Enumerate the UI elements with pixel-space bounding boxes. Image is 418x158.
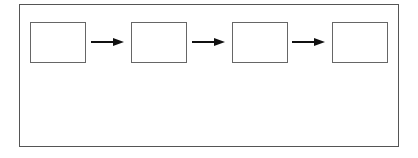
flow-node-2 xyxy=(131,22,187,63)
arrow-right-icon xyxy=(292,37,326,47)
flow-node-1 xyxy=(30,22,86,63)
arrow-right-icon xyxy=(91,37,125,47)
flow-node-3 xyxy=(232,22,288,63)
flow-node-4 xyxy=(332,22,388,63)
arrow-right-icon xyxy=(192,37,226,47)
